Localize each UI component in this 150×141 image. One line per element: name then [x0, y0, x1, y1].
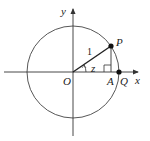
angle-label: z — [90, 62, 96, 74]
radius-label: 1 — [87, 46, 92, 57]
point-p-label: P — [115, 36, 123, 48]
point-q-label: Q — [120, 75, 128, 87]
right-angle-mark — [104, 65, 111, 72]
diagram-canvas: y x O P A Q z 1 — [0, 0, 150, 141]
y-axis-label: y — [60, 5, 66, 17]
unit-circle-diagram: y x O P A Q z 1 — [0, 0, 150, 141]
point-a-label: A — [106, 75, 114, 87]
point-p-dot — [108, 43, 113, 48]
point-q-dot — [116, 69, 121, 74]
origin-label: O — [63, 75, 71, 87]
x-axis-label: x — [134, 74, 140, 86]
